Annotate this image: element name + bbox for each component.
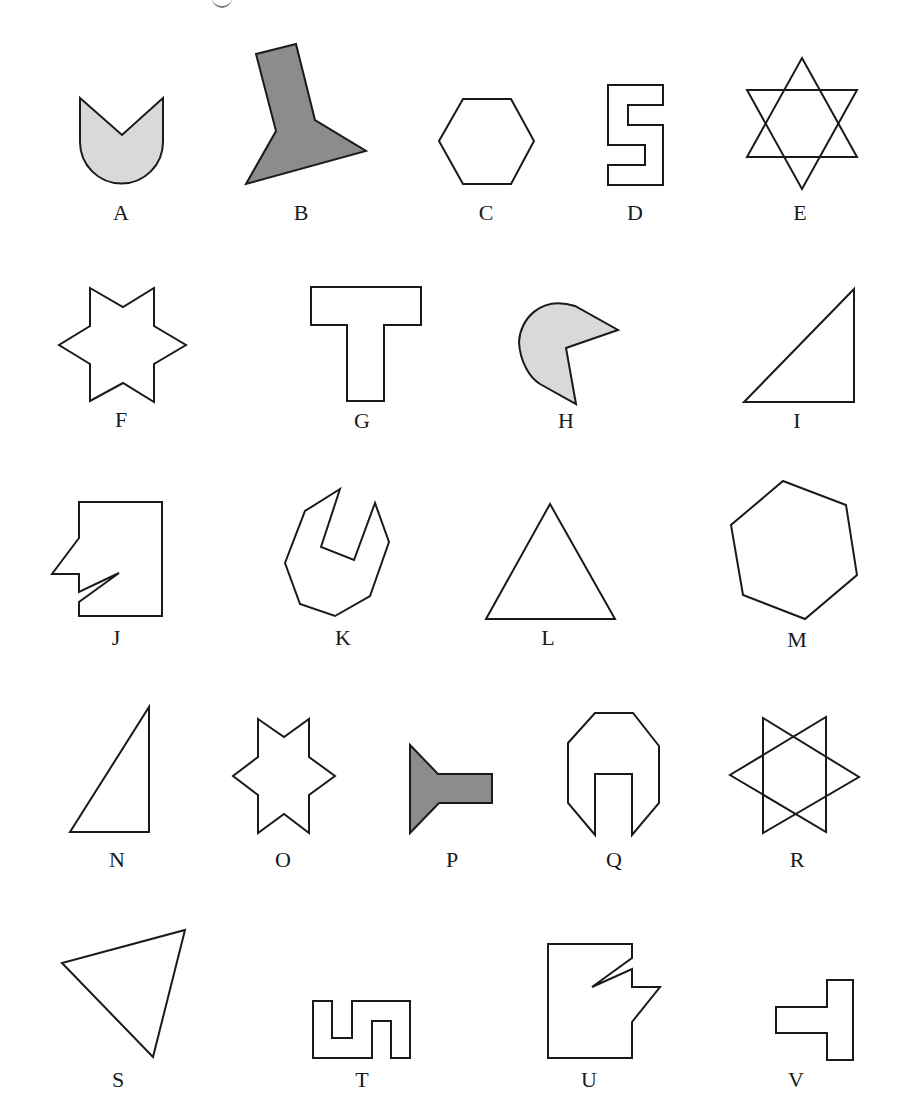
- shape-v: V: [776, 980, 853, 1092]
- shape-g: G: [311, 287, 421, 433]
- shape-t: T: [313, 1001, 410, 1092]
- shape-s: S: [62, 930, 185, 1092]
- label-b: B: [294, 200, 309, 225]
- label-m: M: [787, 627, 807, 652]
- label-r: R: [790, 847, 805, 872]
- label-e: E: [793, 200, 806, 225]
- label-p: P: [446, 847, 458, 872]
- label-j: J: [112, 625, 121, 650]
- shape-h: H: [519, 303, 618, 433]
- shape-r: R: [730, 717, 859, 872]
- shape-d: D: [608, 85, 663, 225]
- shape-f: F: [59, 288, 186, 432]
- label-t: T: [355, 1067, 369, 1092]
- shape-k: K: [285, 489, 389, 650]
- shape-q: Q: [568, 713, 659, 872]
- shape-m: M: [731, 481, 857, 652]
- label-k: K: [335, 625, 351, 650]
- shape-l: L: [486, 504, 615, 650]
- shape-e: E: [747, 58, 857, 225]
- label-i: I: [793, 408, 800, 433]
- label-c: C: [479, 200, 494, 225]
- shape-j: J: [52, 502, 162, 650]
- shape-a: A: [80, 98, 163, 225]
- shape-i: I: [744, 289, 854, 433]
- shape-b: B: [246, 44, 366, 225]
- shape-c: C: [439, 99, 534, 225]
- label-s: S: [112, 1067, 124, 1092]
- label-d: D: [627, 200, 643, 225]
- label-f: F: [115, 407, 127, 432]
- label-q: Q: [606, 847, 622, 872]
- shape-o: O: [233, 719, 335, 872]
- label-n: N: [109, 847, 125, 872]
- shape-p: P: [410, 745, 492, 872]
- shape-u: U: [548, 944, 660, 1092]
- label-h: H: [558, 408, 574, 433]
- label-v: V: [788, 1067, 804, 1092]
- label-o: O: [275, 847, 291, 872]
- label-a: A: [113, 200, 129, 225]
- label-l: L: [541, 625, 554, 650]
- shape-n: N: [70, 707, 149, 872]
- label-u: U: [581, 1067, 597, 1092]
- shapes-diagram: A B C D E F G H I J: [0, 0, 901, 1109]
- label-g: G: [354, 408, 370, 433]
